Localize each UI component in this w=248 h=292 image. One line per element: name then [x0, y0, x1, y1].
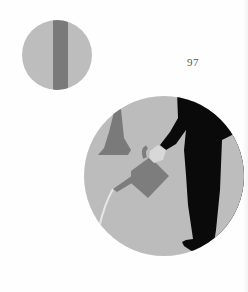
- trunk-stripe: [53, 15, 68, 95]
- book-page: 97: [0, 0, 248, 292]
- page-number: 97: [187, 56, 199, 68]
- small-circle-illustration: [22, 15, 92, 95]
- illustrations: [0, 0, 248, 292]
- large-circle-illustration: [84, 92, 248, 256]
